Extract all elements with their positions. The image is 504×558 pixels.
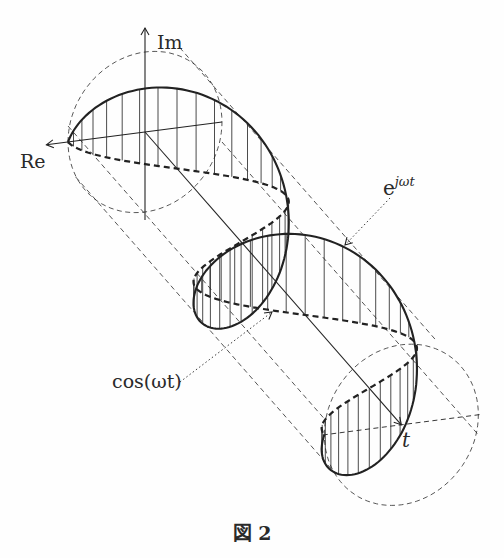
cylinder-edge-line [222,142,478,435]
helix-leader [345,198,390,245]
figure-caption: 図 2 [0,518,504,545]
helix-label-exponent: jωt [395,174,415,189]
figure: Im Re t ejωt cos(ωt) 図 2 [0,0,504,558]
cylinder-guides [68,48,480,506]
helix-label: ejωt [383,174,415,200]
t-axis-label: t [402,428,410,452]
helix-path [68,88,417,476]
im-axis-label: Im [157,31,183,53]
t-axis [145,132,401,425]
cos-leader [180,312,272,382]
helix-label-base: e [383,176,395,200]
helix-curve [68,88,417,476]
cos-label: cos(ωt) [112,370,182,392]
helix-diagram [0,0,504,558]
re-axis-label: Re [20,150,46,172]
projection-hatching [68,88,417,476]
axes [46,28,401,425]
